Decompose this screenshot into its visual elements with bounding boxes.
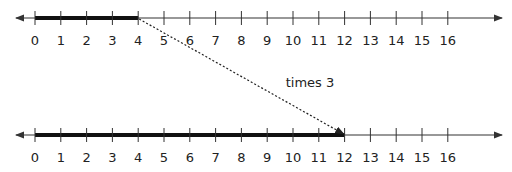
tick-label: 13 [362,150,379,165]
tick-label: 1 [57,33,65,48]
tick-label: 6 [186,33,194,48]
times-label: times 3 [286,75,335,90]
tick-label: 3 [108,33,116,48]
tick-label: 2 [82,33,90,48]
tick-label: 10 [285,150,302,165]
tick-label: 0 [31,150,39,165]
bottom-number-line: 012345678910111213141516 [16,128,502,165]
tick-label: 16 [440,33,457,48]
tick-label: 12 [336,33,353,48]
tick-label: 10 [285,33,302,48]
tick-label: 11 [311,33,328,48]
tick-label: 3 [108,150,116,165]
tick-label: 12 [336,150,353,165]
tick-label: 9 [263,33,271,48]
tick-label: 1 [57,150,65,165]
tick-label: 8 [237,150,245,165]
tick-label: 8 [237,33,245,48]
tick-label: 4 [134,33,142,48]
tick-label: 11 [311,150,328,165]
tick-label: 13 [362,33,379,48]
tick-label: 9 [263,150,271,165]
tick-label: 4 [134,150,142,165]
tick-label: 15 [414,33,431,48]
tick-label: 14 [388,150,405,165]
tick-label: 7 [211,33,219,48]
top-number-line: 012345678910111213141516 [16,11,502,48]
tick-label: 14 [388,33,405,48]
tick-label: 16 [440,150,457,165]
tick-label: 15 [414,150,431,165]
tick-label: 7 [211,150,219,165]
tick-label: 0 [31,33,39,48]
tick-label: 5 [160,150,168,165]
number-line-diagram: 012345678910111213141516 012345678910111… [0,0,512,172]
tick-label: 6 [186,150,194,165]
tick-label: 2 [82,150,90,165]
